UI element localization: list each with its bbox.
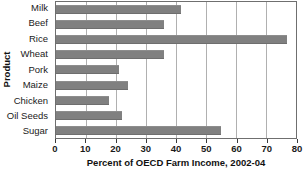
x-axis-tick-label: 70: [261, 143, 272, 154]
bar: [56, 50, 164, 59]
y-axis-tick-label: Wheat: [14, 46, 52, 61]
y-axis-tick-label: Rice: [14, 31, 52, 46]
bars-layer: [56, 2, 296, 138]
bar-row: [56, 108, 296, 123]
bar-row: [56, 2, 296, 17]
bar-row: [56, 32, 296, 47]
bar: [56, 111, 122, 120]
x-axis-tick-label: 60: [231, 143, 242, 154]
x-axis-tick-label: 80: [292, 143, 303, 154]
bar-row: [56, 93, 296, 108]
x-axis-tick-label: 20: [110, 143, 121, 154]
bar: [56, 35, 287, 44]
y-axis-tick-labels: MilkBeefRiceWheatPorkMaizeChickenOil See…: [14, 0, 52, 139]
x-axis-tick-label: 40: [171, 143, 182, 154]
y-axis-tick-label: Pork: [14, 62, 52, 77]
bar: [56, 96, 109, 105]
bar: [56, 5, 181, 14]
x-axis-title: Percent of OECD Farm Income, 2002-04: [55, 157, 297, 168]
bar-row: [56, 62, 296, 77]
x-axis-tick-labels: 01020304050607080: [55, 143, 297, 156]
bar: [56, 81, 128, 90]
y-axis-tick-label: Sugar: [14, 124, 52, 139]
bar: [56, 126, 221, 135]
y-axis-tick-label: Oil Seeds: [14, 108, 52, 123]
bar-row: [56, 78, 296, 93]
y-axis-tick-label: Milk: [14, 0, 52, 15]
bar-row: [56, 17, 296, 32]
x-axis-tick-label: 30: [140, 143, 151, 154]
x-axis-tick-label: 0: [52, 143, 57, 154]
bar: [56, 20, 164, 29]
y-axis-tick-label: Chicken: [14, 93, 52, 108]
y-axis-tick-label: Maize: [14, 77, 52, 92]
y-axis-tick-label: Beef: [14, 15, 52, 30]
x-axis-tick-label: 10: [80, 143, 91, 154]
x-axis-tick-label: 50: [201, 143, 212, 154]
bar-row: [56, 47, 296, 62]
y-axis-title-text: Product: [2, 52, 13, 88]
horizontal-bar-chart: Product MilkBeefRiceWheatPorkMaizeChicke…: [0, 0, 305, 173]
bar: [56, 65, 119, 74]
plot-area: [55, 1, 297, 139]
bar-row: [56, 123, 296, 138]
